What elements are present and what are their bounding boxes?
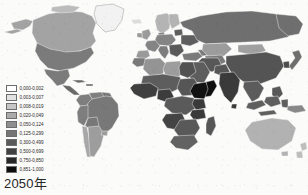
legend-label-4: 0,050-0,124 — [20, 121, 44, 128]
legend-item-8: 0,750-0,850 — [6, 156, 62, 165]
legend-label-8: 0,750-0,850 — [20, 157, 44, 164]
legend-label-9: 0,851-1,000 — [20, 166, 44, 173]
legend-swatch-8 — [6, 157, 17, 164]
legend-label-5: 0,125-0,299 — [20, 130, 44, 137]
legend-swatch-3 — [6, 112, 17, 119]
legend-swatch-4 — [6, 121, 17, 128]
region-korea — [283, 61, 290, 68]
legend-item-5: 0,125-0,299 — [6, 129, 62, 138]
region-sulawesi — [281, 99, 288, 108]
legend-item-2: 0,008-0,019 — [6, 102, 62, 111]
legend-item-7: 0,500-0,699 — [6, 147, 62, 156]
legend-swatch-5 — [6, 130, 17, 137]
legend-swatch-9 — [6, 166, 17, 173]
region-hispaniola — [86, 84, 93, 86]
region-sri-lanka — [231, 104, 237, 109]
figure-caption: 2050年 — [4, 174, 47, 193]
figure-world-choropleth-2050: 0,000-0,002 0,003-0,007 0,008-0,019 0,02… — [0, 0, 308, 195]
legend-label-2: 0,008-0,019 — [20, 103, 44, 110]
legend-item-9: 0,851-1,000 — [6, 165, 62, 174]
legend-item-3: 0,020-0,049 — [6, 111, 62, 120]
region-new-zealand-south — [296, 151, 303, 158]
region-tanzania — [190, 109, 206, 120]
legend-label-0: 0,000-0,002 — [20, 85, 44, 92]
legend-label-6: 0,300-0,499 — [20, 139, 44, 146]
legend-item-1: 0,003-0,007 — [6, 93, 62, 102]
legend-swatch-0 — [6, 85, 17, 92]
legend-item-0: 0,000-0,002 — [6, 84, 62, 93]
region-ireland — [137, 33, 142, 38]
legend-swatch-1 — [6, 94, 17, 101]
legend-label-1: 0,003-0,007 — [20, 94, 44, 101]
legend-swatch-6 — [6, 139, 17, 146]
legend: 0,000-0,002 0,003-0,007 0,008-0,019 0,02… — [6, 84, 62, 174]
legend-swatch-7 — [6, 148, 17, 155]
region-uruguay — [101, 131, 108, 136]
legend-label-7: 0,500-0,699 — [20, 148, 44, 155]
legend-label-3: 0,020-0,049 — [20, 112, 44, 119]
region-tasmania — [281, 151, 288, 156]
legend-item-6: 0,300-0,499 — [6, 138, 62, 147]
legend-item-4: 0,050-0,124 — [6, 120, 62, 129]
legend-swatch-2 — [6, 103, 17, 110]
